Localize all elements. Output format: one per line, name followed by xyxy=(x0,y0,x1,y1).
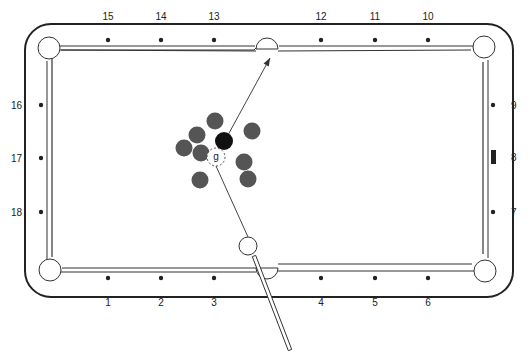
ball xyxy=(192,172,209,189)
diamond-label: 6 xyxy=(425,297,431,308)
diamond-label: 1 xyxy=(105,297,111,308)
diamond-label: 17 xyxy=(11,153,23,164)
pocket-top-right xyxy=(473,36,495,58)
diamond-dot xyxy=(491,103,495,107)
diamond-label: 18 xyxy=(11,207,23,218)
diamond-label: 7 xyxy=(511,207,517,218)
diamond-dot xyxy=(39,156,43,160)
diamond-dot xyxy=(106,38,110,42)
diamond-label: 10 xyxy=(422,11,434,22)
diamond-label: 9 xyxy=(511,100,517,111)
ghost-ball: g xyxy=(207,148,225,166)
pool-table-diagram: 151413121110123456161718987 g xyxy=(0,0,530,362)
diamond-dot xyxy=(159,38,163,42)
cue-ball xyxy=(239,237,257,255)
diamond-dot xyxy=(426,276,430,280)
diamond-label: 8 xyxy=(511,152,517,163)
ball xyxy=(189,127,206,144)
pocket-bottom-left xyxy=(39,259,61,281)
diamond-dot xyxy=(426,38,430,42)
diamond-label: 12 xyxy=(315,11,327,22)
diamond-label: 4 xyxy=(318,297,324,308)
diamond-label: 11 xyxy=(370,11,381,22)
diamond-dot xyxy=(39,210,43,214)
diamond-dot xyxy=(373,276,377,280)
diamond-label: 3 xyxy=(211,297,217,308)
diamond-label: 5 xyxy=(372,297,378,308)
diamond-dot xyxy=(159,276,163,280)
target-ball xyxy=(215,132,233,150)
diamond-label: 2 xyxy=(158,297,164,308)
diamond-dot xyxy=(212,38,216,42)
diamond-dot xyxy=(106,276,110,280)
diamond-label: 14 xyxy=(155,11,167,22)
ball xyxy=(236,154,253,171)
ghost-ball-label: g xyxy=(213,151,219,162)
ball xyxy=(240,171,257,188)
pocket-bottom-right xyxy=(474,260,496,282)
diamond-dot xyxy=(39,103,43,107)
diamond-label: 15 xyxy=(102,11,114,22)
pocket-top-left xyxy=(38,37,60,59)
diamond-dot xyxy=(373,38,377,42)
ball xyxy=(244,123,261,140)
diamond-label: 16 xyxy=(11,100,23,111)
ball xyxy=(193,145,210,162)
diamond-dot xyxy=(491,210,495,214)
ball xyxy=(207,113,224,130)
diamond-dot xyxy=(319,276,323,280)
diamond-bar xyxy=(491,150,496,164)
diamond-label: 13 xyxy=(208,11,220,22)
diamond-dot xyxy=(212,276,216,280)
ball xyxy=(176,140,193,157)
diamond-dot xyxy=(319,38,323,42)
